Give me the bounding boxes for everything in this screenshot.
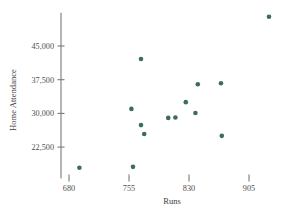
x-tick-label: 680 bbox=[63, 184, 75, 193]
x-tick-label: 905 bbox=[243, 184, 255, 193]
x-tick-label: 755 bbox=[123, 184, 135, 193]
x-axis-title: Runs bbox=[163, 196, 181, 206]
data-point bbox=[131, 165, 136, 170]
scatter-plot-figure: 22,50030,00037,50045,000680755830905Runs… bbox=[0, 0, 296, 221]
y-axis-title: Home Attendance bbox=[8, 69, 18, 131]
x-tick-label: 830 bbox=[183, 184, 195, 193]
y-tick-label: 45,000 bbox=[31, 42, 54, 51]
scatter-plot-svg: 22,50030,00037,50045,000680755830905Runs… bbox=[0, 0, 296, 221]
data-point bbox=[142, 132, 147, 137]
y-tick-label: 37,500 bbox=[31, 76, 54, 85]
data-point bbox=[220, 134, 225, 139]
data-point bbox=[129, 107, 134, 112]
data-point bbox=[173, 115, 178, 120]
data-point bbox=[139, 123, 144, 128]
data-point bbox=[219, 81, 224, 86]
y-tick-label: 30,000 bbox=[31, 109, 54, 118]
data-point bbox=[77, 165, 82, 170]
data-point bbox=[166, 116, 171, 121]
data-point bbox=[184, 100, 189, 105]
y-tick-label: 22,500 bbox=[31, 143, 54, 152]
data-point bbox=[267, 14, 272, 19]
data-point bbox=[196, 82, 201, 87]
data-point bbox=[193, 111, 198, 116]
data-point bbox=[139, 57, 144, 62]
